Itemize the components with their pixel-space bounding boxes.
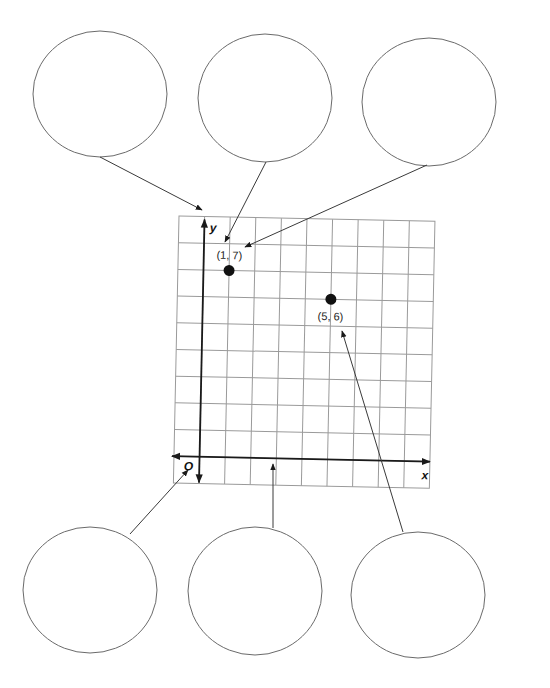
callout-oval-bottom-right[interactable] — [351, 532, 485, 658]
x-axis-label: x — [420, 468, 429, 482]
arrow-top-left-to-y-axis — [100, 157, 202, 210]
callout-oval-top-left[interactable] — [33, 31, 167, 157]
y-axis — [199, 220, 205, 483]
x-axis — [172, 456, 430, 461]
point-5-6 — [325, 294, 336, 305]
callout-oval-top-middle[interactable] — [198, 34, 332, 162]
y-axis-label: y — [209, 221, 218, 235]
callout-oval-top-right[interactable] — [362, 38, 496, 166]
point-label-5-6: (5, 6) — [318, 310, 344, 323]
callout-oval-bottom-middle[interactable] — [188, 527, 322, 655]
arrow-top-right-to-y-coordinate — [245, 165, 427, 247]
grid-lines — [173, 216, 435, 488]
arrow-bottom-left-to-origin — [130, 470, 188, 534]
arrow-bottom-right-to-ordered-pair — [342, 331, 403, 532]
point-label-1-7: (1, 7) — [216, 249, 242, 262]
callout-oval-bottom-left[interactable] — [23, 527, 157, 653]
point-1-7 — [223, 265, 234, 276]
diagram-canvas: x y O (1, 7) (5, 6) — [0, 0, 550, 688]
origin-label: O — [184, 459, 194, 473]
arrow-top-middle-to-x-coordinate — [225, 162, 266, 242]
coordinate-grid: x y O (1, 7) (5, 6) — [171, 216, 435, 488]
